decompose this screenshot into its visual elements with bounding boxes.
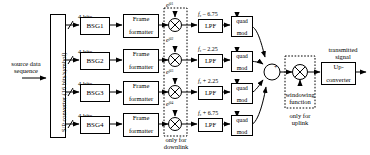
up-converter-block: Up- converter bbox=[321, 62, 356, 85]
wire-mod4-to-sum bbox=[251, 87, 266, 125]
downlink-annotation: only for downlink bbox=[152, 137, 200, 151]
summer-plus-sign: + bbox=[274, 64, 277, 70]
lpf-block-2: LPF bbox=[198, 54, 223, 68]
frame-formatter-block-3: Frame formatter bbox=[123, 81, 159, 105]
wire-mod1-to-sum bbox=[251, 26, 265, 57]
frame-formatter-block-4: Frame formatter bbox=[123, 113, 159, 137]
frame-formatter-block-1: Frame formatter bbox=[123, 14, 159, 38]
transmitted-signal-label: transmitted signal bbox=[316, 47, 370, 61]
quad-mod-block-3: quad mod bbox=[231, 83, 253, 104]
summing-junction bbox=[264, 64, 280, 80]
lpf-block-3: LPF bbox=[198, 86, 223, 100]
quad-mod-block-2: quad mod bbox=[231, 51, 253, 72]
carrier-freq-label-4: fc + 6.75 bbox=[198, 110, 218, 117]
bsg-block-3: BSG3 bbox=[80, 84, 110, 102]
lpf-block-1: LPF bbox=[198, 19, 223, 33]
quad-mod-block-4: quad mod bbox=[231, 115, 253, 136]
phase-term-2: ejθ2 bbox=[166, 37, 173, 43]
carrier-freq-label-1: fc – 6.75 bbox=[198, 11, 218, 18]
source-data-label: source data sequence bbox=[2, 61, 50, 75]
phase-term-3: ejθ3 bbox=[166, 69, 173, 75]
uplink-annotation: only for uplink bbox=[276, 113, 324, 127]
phase-term-1: ejθ1 bbox=[166, 2, 173, 8]
phase-term-4: ejθ4 bbox=[166, 101, 173, 107]
bsg-block-4: BSG4 bbox=[80, 116, 110, 134]
transmitter-block-diagram: source data sequence S/P converter (16 b… bbox=[0, 0, 370, 155]
bsg-block-1: BSG1 bbox=[80, 17, 110, 35]
carrier-freq-label-3: fc + 2.25 bbox=[198, 78, 218, 85]
sp-converter-label: S/P converter (16 bits/symbol) bbox=[60, 53, 67, 132]
bsg-block-2: BSG2 bbox=[80, 52, 110, 70]
windowing-function-label: windowing function bbox=[272, 92, 328, 106]
lpf-block-4: LPF bbox=[198, 118, 223, 132]
quad-mod-block-1: quad mod bbox=[231, 16, 253, 37]
frame-formatter-block-2: Frame formatter bbox=[123, 49, 159, 73]
carrier-freq-label-2: fc – 2.25 bbox=[198, 46, 218, 53]
